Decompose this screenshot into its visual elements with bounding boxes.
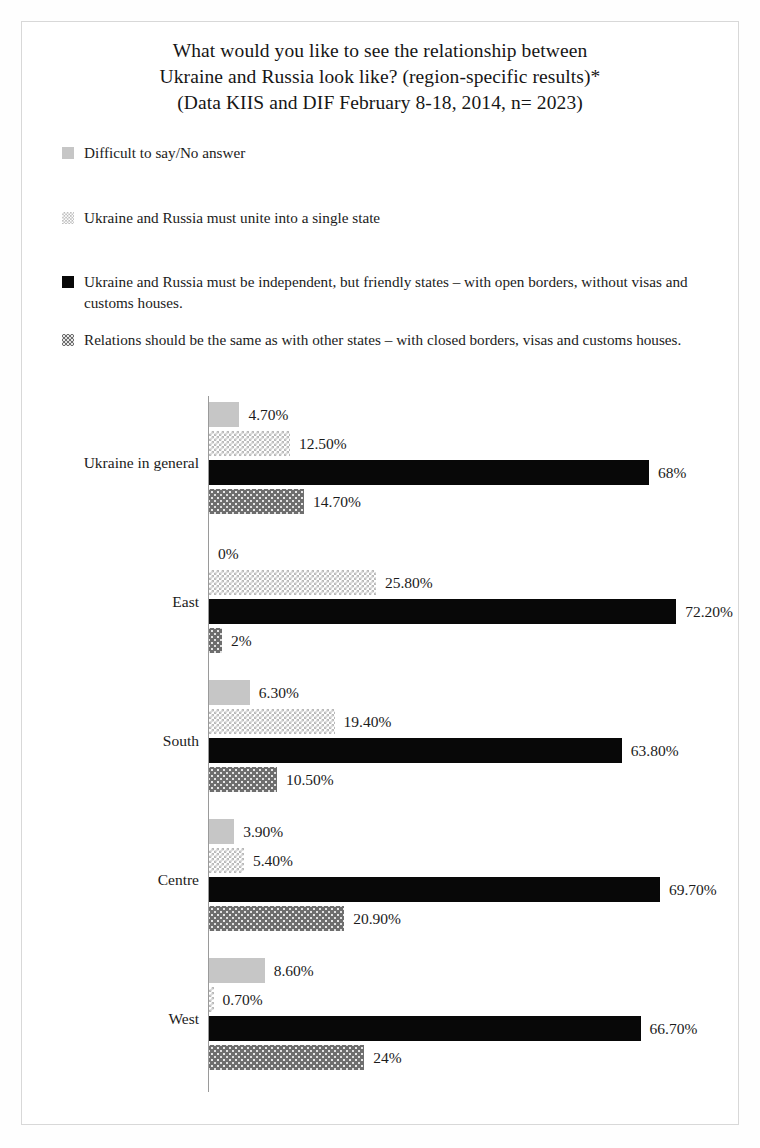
category-label: East [21,592,199,612]
bar-4[interactable] [209,767,277,792]
bar-row: 24% [209,1045,729,1070]
bar-row: 0.70% [209,987,729,1012]
light-checker-pattern-swatch-icon [62,212,74,224]
bar-4[interactable] [209,906,344,931]
bar-value-label: 10.50% [286,769,334,790]
bar-row: 72.20% [209,599,729,624]
bar-4[interactable] [209,1045,364,1070]
legend-item-label: Ukraine and Russia must unite into a sin… [84,208,722,229]
bar-row: 20.90% [209,906,729,931]
bar-group: Ukraine in general4.70%12.50%68%14.70% [21,396,739,536]
bar-row: 68% [209,460,729,485]
legend-item-label: Ukraine and Russia must be independent, … [84,272,724,313]
bar-value-label: 6.30% [259,682,299,703]
bar-value-label: 25.80% [385,572,433,593]
bar-group: West8.60%0.70%66.70%24% [21,952,739,1092]
bar-3[interactable] [209,599,676,624]
bar-4[interactable] [209,489,304,514]
bar-1[interactable] [209,402,239,427]
bar-value-label: 20.90% [353,908,401,929]
bar-row: 25.80% [209,570,729,595]
bar-row: 3.90% [209,819,729,844]
bar-row: 4.70% [209,402,729,427]
bar-row: 66.70% [209,1016,729,1041]
bar-group: East0%25.80%72.20%2% [21,535,739,675]
bar-3[interactable] [209,738,622,763]
bar-row: 0% [209,541,729,566]
bar-2[interactable] [209,431,290,456]
bar-3[interactable] [209,877,660,902]
bar-value-label: 24% [373,1047,401,1068]
bar-value-label: 2% [231,630,252,651]
black-solid-swatch-icon [62,276,74,288]
bar-row: 14.70% [209,489,729,514]
legend-item-difficult-to-say: Difficult to say/No answer [62,143,722,164]
bar-row: 69.70% [209,877,729,902]
bar-2[interactable] [209,709,335,734]
bar-value-label: 63.80% [631,740,679,761]
bar-group: South6.30%19.40%63.80%10.50% [21,674,739,814]
bar-1[interactable] [209,680,250,705]
bar-value-label: 4.70% [248,404,288,425]
bar-1[interactable] [209,819,234,844]
bar-value-label: 14.70% [313,491,361,512]
bar-value-label: 12.50% [299,433,347,454]
bar-value-label: 8.60% [274,960,314,981]
bar-value-label: 72.20% [685,601,733,622]
category-label: South [21,731,199,751]
bar-row: 5.40% [209,848,729,873]
category-label: Ukraine in general [21,453,199,473]
bar-group: Centre3.90%5.40%69.70%20.90% [21,813,739,953]
bar-row: 12.50% [209,431,729,456]
bar-2[interactable] [209,987,214,1012]
bar-row: 2% [209,628,729,653]
category-label: Centre [21,870,199,890]
bar-value-label: 3.90% [243,821,283,842]
bar-2[interactable] [209,570,376,595]
bar-3[interactable] [209,1016,641,1041]
bar-value-label: 68% [658,462,686,483]
chart-legend: Difficult to say/No answer Ukraine and R… [62,143,722,351]
bar-row: 8.60% [209,958,729,983]
bar-3[interactable] [209,460,649,485]
title-line-3: (Data KIIS and DIF February 8-18, 2014, … [21,90,739,116]
bar-value-label: 69.70% [669,879,717,900]
legend-item-closed-borders: Relations should be the same as with oth… [62,330,724,351]
bar-row: 6.30% [209,680,729,705]
bar-value-label: 0% [218,543,239,564]
bar-4[interactable] [209,628,222,653]
title-line-2: Ukraine and Russia look like? (region-sp… [21,64,739,90]
bar-1[interactable] [209,958,265,983]
bar-row: 63.80% [209,738,729,763]
title-line-1: What would you like to see the relations… [21,38,739,64]
bar-value-label: 19.40% [344,711,392,732]
bar-value-label: 5.40% [253,850,293,871]
category-label: West [21,1009,199,1029]
dark-gray-dotted-swatch-icon [62,334,74,346]
bar-2[interactable] [209,848,244,873]
chart-page: What would you like to see the relations… [0,0,760,1148]
bar-value-label: 66.70% [650,1018,698,1039]
legend-item-label: Relations should be the same as with oth… [84,330,724,351]
bar-value-label: 0.70% [223,989,263,1010]
chart-plot-area: Ukraine in general4.70%12.50%68%14.70%Ea… [21,396,739,1096]
bar-row: 10.50% [209,767,729,792]
legend-item-single-state: Ukraine and Russia must unite into a sin… [62,208,722,229]
legend-item-friendly-independent: Ukraine and Russia must be independent, … [62,272,724,313]
chart-title: What would you like to see the relations… [21,38,739,116]
bar-row: 19.40% [209,709,729,734]
light-gray-solid-swatch-icon [62,147,74,159]
legend-item-label: Difficult to say/No answer [84,143,722,164]
